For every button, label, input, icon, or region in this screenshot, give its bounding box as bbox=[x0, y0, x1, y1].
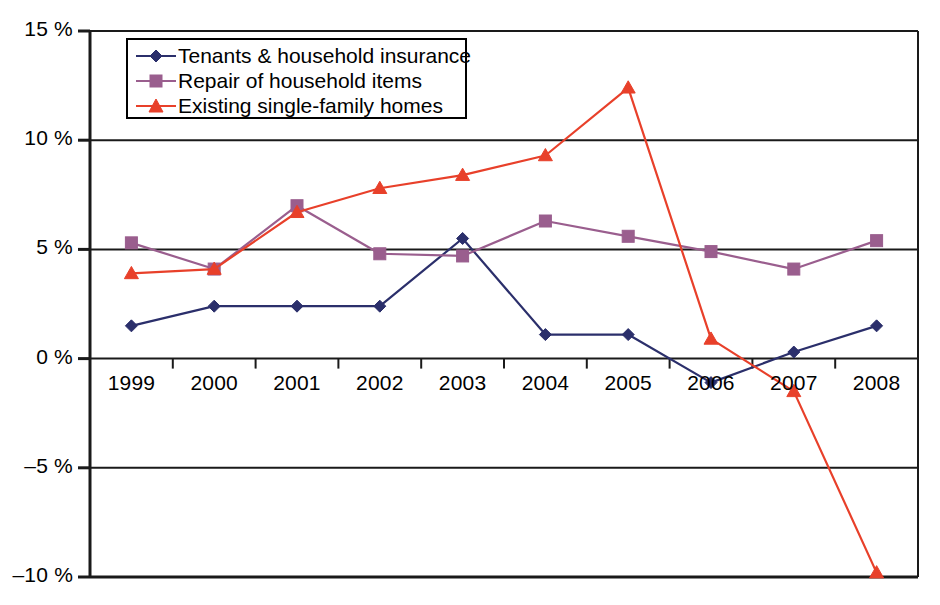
data-point-marker-triangle bbox=[870, 566, 884, 578]
data-point-marker-square bbox=[539, 215, 551, 227]
data-point-marker-triangle bbox=[621, 81, 635, 93]
series-line-2 bbox=[131, 88, 876, 573]
y-axis-label-10: 10 % bbox=[24, 126, 73, 150]
series-line-1 bbox=[131, 206, 876, 269]
x-axis-label-2006: 2006 bbox=[666, 371, 756, 395]
legend-label-1: Repair of household items bbox=[178, 68, 422, 93]
data-point-marker-square bbox=[788, 263, 800, 275]
data-point-marker-square bbox=[374, 248, 386, 260]
legend-marker-square-icon bbox=[134, 68, 178, 93]
chart-container: 15 %10 %5 %0 %–5 %–10 % 1999200020012002… bbox=[0, 0, 940, 605]
y-axis-label-neg5: –5 % bbox=[24, 454, 73, 478]
x-axis-label-2002: 2002 bbox=[335, 371, 425, 395]
legend-label-2: Existing single-family homes bbox=[178, 93, 443, 118]
data-point-marker-diamond bbox=[788, 346, 800, 358]
data-point-marker-diamond bbox=[871, 320, 883, 332]
x-axis-label-2005: 2005 bbox=[583, 371, 673, 395]
data-point-marker-square bbox=[125, 237, 137, 249]
data-point-marker-triangle bbox=[704, 332, 718, 344]
legend-item-1[interactable]: Repair of household items bbox=[134, 68, 457, 93]
x-axis-label-2000: 2000 bbox=[169, 371, 259, 395]
data-point-marker-square bbox=[705, 246, 717, 258]
data-point-marker-square bbox=[622, 230, 634, 242]
x-axis-label-2004: 2004 bbox=[500, 371, 590, 395]
y-axis-label-0: 0 % bbox=[36, 345, 73, 369]
data-point-marker-diamond bbox=[125, 320, 137, 332]
x-axis-label-1999: 1999 bbox=[86, 371, 176, 395]
data-point-marker-square bbox=[457, 250, 469, 262]
y-axis-label-neg10: –10 % bbox=[12, 563, 73, 587]
x-axis-label-2003: 2003 bbox=[418, 371, 508, 395]
data-point-marker-square bbox=[871, 235, 883, 247]
legend-item-2[interactable]: Existing single-family homes bbox=[134, 93, 457, 118]
legend-marker-diamond-icon bbox=[134, 43, 178, 68]
y-axis-label-5: 5 % bbox=[36, 235, 73, 259]
x-axis-label-2001: 2001 bbox=[252, 371, 342, 395]
x-axis-label-2008: 2008 bbox=[832, 371, 922, 395]
legend-label-0: Tenants & household insurance bbox=[178, 43, 471, 68]
data-point-marker-diamond bbox=[291, 300, 303, 312]
chart-legend: Tenants & household insuranceRepair of h… bbox=[126, 38, 467, 119]
legend-item-0[interactable]: Tenants & household insurance bbox=[134, 43, 457, 68]
y-axis-label-15: 15 % bbox=[24, 17, 73, 41]
data-point-marker-diamond bbox=[622, 329, 634, 341]
x-axis-label-2007: 2007 bbox=[749, 371, 839, 395]
data-point-marker-diamond bbox=[208, 300, 220, 312]
legend-marker-triangle-icon bbox=[134, 93, 178, 118]
